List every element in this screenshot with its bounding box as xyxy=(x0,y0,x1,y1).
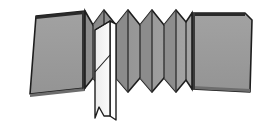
right-panel-face xyxy=(192,13,252,92)
blade-side-face xyxy=(110,21,116,120)
right-panel-top-bevel xyxy=(192,13,245,16)
left-panel-group xyxy=(30,11,85,97)
right-panel-group xyxy=(192,13,252,92)
figure-root xyxy=(0,0,267,134)
inserted-blade-group xyxy=(95,21,116,120)
left-panel-face xyxy=(30,11,85,94)
accordion-fold-diagram xyxy=(0,0,267,134)
